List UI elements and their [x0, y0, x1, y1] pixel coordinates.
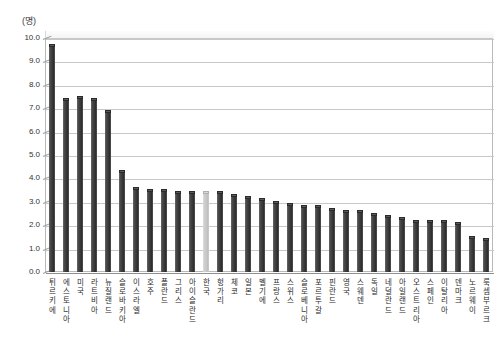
bar-덴마크	[455, 223, 462, 272]
bar-스웨덴	[357, 211, 364, 272]
x-tick-label-미국: 미국	[75, 278, 85, 296]
gridline-0.0	[46, 273, 494, 274]
bar-body	[231, 194, 238, 272]
x-tick-label-스위스: 스위스	[285, 278, 295, 306]
bar-body	[469, 236, 476, 272]
bar-top-cap	[413, 220, 420, 223]
chart-frame-top-face	[45, 31, 494, 38]
bar-영국	[343, 211, 350, 272]
x-tick-label-헝가리: 헝가리	[215, 278, 225, 306]
bar-그리스	[175, 192, 182, 272]
bar-top-cap	[49, 44, 56, 47]
bar-아이슬란드	[189, 192, 196, 272]
bar-프랑스	[273, 202, 280, 272]
bar-body	[329, 208, 336, 272]
bar-top-cap	[329, 208, 336, 211]
bar-body	[49, 44, 56, 272]
bar-body	[287, 203, 294, 272]
bar-슬로바키아	[119, 171, 126, 272]
bar-body	[161, 189, 168, 272]
x-tick-label-뉴질랜드: 뉴질랜드	[103, 278, 113, 315]
x-tick-label-핀란드: 핀란드	[327, 278, 337, 306]
y-tick-label-5.0: 5.0	[0, 150, 40, 159]
bar-top-cap	[91, 98, 98, 101]
x-tick-label-영국: 영국	[341, 278, 351, 296]
y-tick-label-1.0: 1.0	[0, 244, 40, 253]
x-axis-labels: 튀르키에에스토니아미국라트비아뉴질랜드슬로바키아이스라엘호주폴란드그리스아이슬란…	[45, 278, 493, 352]
bar-top-cap	[287, 203, 294, 206]
bar-top-cap	[77, 96, 84, 99]
x-tick-label-일본: 일본	[243, 278, 253, 296]
bar-top-cap	[105, 110, 112, 113]
bar-벨기에	[259, 199, 266, 272]
bar-일본	[245, 197, 252, 272]
y-tick-label-8.0: 8.0	[0, 80, 40, 89]
bar-body	[301, 205, 308, 272]
bar-한국	[203, 192, 210, 272]
bar-top-cap	[441, 220, 448, 223]
bar-body	[427, 220, 434, 272]
bar-체코	[231, 195, 238, 272]
x-tick-label-스웨덴: 스웨덴	[355, 278, 365, 306]
bar-body	[259, 198, 266, 272]
bar-튀르키에	[49, 45, 56, 272]
bar-top-cap	[385, 215, 392, 218]
x-tick-label-슬로바키아: 슬로바키아	[117, 278, 127, 324]
bar-독일	[371, 214, 378, 273]
bar-body	[343, 210, 350, 272]
bar-body	[413, 220, 420, 272]
y-tick-label-2.0: 2.0	[0, 220, 40, 229]
bar-top-cap	[63, 98, 70, 101]
bar-네덜란드	[385, 216, 392, 272]
bar-top-cap	[273, 201, 280, 204]
bar-뉴질랜드	[105, 111, 112, 272]
bar-top-cap	[483, 238, 490, 241]
bar-body	[315, 205, 322, 272]
bar-스위스	[287, 204, 294, 272]
bar-top-cap	[371, 213, 378, 216]
bar-에스토니아	[63, 99, 70, 272]
bar-body	[483, 238, 490, 272]
bar-top-cap	[343, 210, 350, 213]
x-tick-label-룩셈부르크: 룩셈부르크	[481, 278, 491, 324]
x-tick-label-체코: 체코	[229, 278, 239, 296]
bar-top-cap	[315, 205, 322, 208]
bar-미국	[77, 97, 84, 273]
bar-오스트리아	[413, 221, 420, 272]
x-tick-label-호주: 호주	[145, 278, 155, 296]
bars-layer	[45, 38, 493, 272]
bar-노르웨이	[469, 237, 476, 272]
bar-chart: (명) 10.09.08.07.06.05.04.03.02.01.00.0 튀…	[0, 0, 502, 353]
bar-top-cap	[427, 220, 434, 223]
bar-헝가리	[217, 192, 224, 272]
bar-이탈리아	[441, 221, 448, 272]
bar-top-cap	[175, 191, 182, 194]
bar-슬로베니아	[301, 206, 308, 272]
bar-top-cap	[119, 170, 126, 173]
bar-top-cap	[133, 187, 140, 190]
bar-body	[245, 196, 252, 272]
bar-top-cap	[231, 194, 238, 197]
x-tick-label-이탈리아: 이탈리아	[439, 278, 449, 315]
bar-top-cap	[469, 236, 476, 239]
x-tick-label-이스라엘: 이스라엘	[131, 278, 141, 315]
bar-라트비아	[91, 99, 98, 272]
bar-body	[357, 210, 364, 272]
bar-body	[63, 98, 70, 272]
x-tick-label-라트비아: 라트비아	[89, 278, 99, 315]
bar-포르투갈	[315, 206, 322, 272]
bar-body	[189, 191, 196, 272]
bar-이스라엘	[133, 188, 140, 272]
bar-body	[133, 187, 140, 272]
bar-body	[455, 222, 462, 272]
bar-body	[175, 191, 182, 272]
x-tick-label-오스트리아: 오스트리아	[411, 278, 421, 324]
y-tick-label-10.0: 10.0	[0, 33, 40, 42]
bar-body	[399, 217, 406, 272]
y-axis-unit-label: (명)	[22, 14, 36, 27]
y-tick-label-3.0: 3.0	[0, 197, 40, 206]
bar-top-cap	[161, 189, 168, 192]
bar-top-cap	[301, 205, 308, 208]
x-tick-label-에스토니아: 에스토니아	[61, 278, 71, 324]
x-tick-label-그리스: 그리스	[173, 278, 183, 306]
